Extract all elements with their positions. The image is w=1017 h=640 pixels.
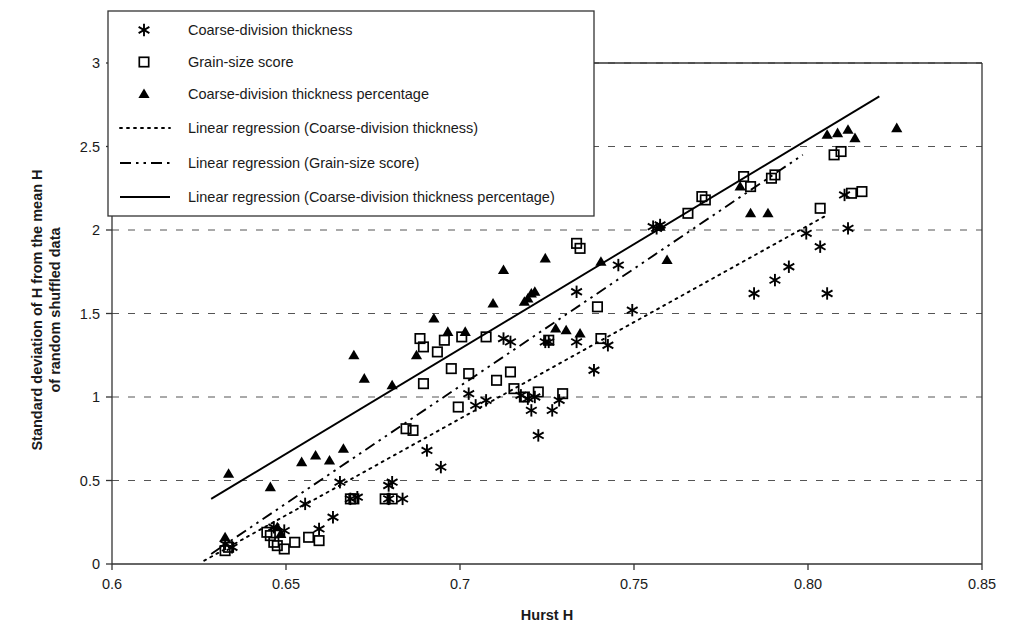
marker-asterisk <box>435 461 446 473</box>
marker-asterisk <box>839 189 850 201</box>
legend: Coarse-division thicknessGrain-size scor… <box>108 11 594 216</box>
marker-square <box>829 150 838 159</box>
marker-triangle <box>310 450 321 460</box>
marker-triangle <box>338 443 349 453</box>
legend-label: Grain-size score <box>188 54 294 70</box>
axis-titles: Hurst HStandard deviation of H from the … <box>29 169 573 623</box>
marker-triangle <box>842 124 853 134</box>
legend-box <box>108 11 594 216</box>
marker-asterisk <box>328 511 339 523</box>
marker-asterisk <box>554 394 565 406</box>
scatter-plot: 00.511.522.530.60.650.70.750.800.85 Hurs… <box>0 0 1017 640</box>
marker-asterisk <box>822 287 833 299</box>
marker-asterisk <box>463 387 474 399</box>
marker-asterisk <box>843 222 854 234</box>
marker-asterisk <box>801 227 812 239</box>
marker-asterisk <box>589 364 600 376</box>
y-tick-label: 0 <box>92 556 100 572</box>
marker-square <box>454 402 463 411</box>
marker-square <box>492 376 501 385</box>
marker-asterisk <box>397 493 408 505</box>
marker-asterisk <box>603 339 614 351</box>
y-axis-title-line1: Standard deviation of H from the mean H <box>29 169 45 450</box>
y-tick-label: 3 <box>92 55 100 71</box>
y-tick-label: 2 <box>92 222 100 238</box>
marker-asterisk <box>470 399 481 411</box>
x-tick-label: 0.7 <box>450 576 470 592</box>
marker-square <box>836 147 845 156</box>
marker-square <box>506 367 515 376</box>
marker-asterisk <box>547 404 558 416</box>
legend-label: Linear regression (Grain-size score) <box>188 155 419 171</box>
marker-triangle <box>891 123 902 133</box>
x-axis-title: Hurst H <box>521 607 573 623</box>
marker-triangle <box>745 208 756 218</box>
marker-asterisk <box>783 261 794 273</box>
marker-asterisk <box>571 286 582 298</box>
marker-square <box>419 379 428 388</box>
x-tick-label: 0.65 <box>272 576 300 592</box>
marker-asterisk <box>422 444 433 456</box>
marker-square <box>697 192 706 201</box>
marker-asterisk <box>749 287 760 299</box>
marker-square <box>815 204 824 213</box>
marker-triangle <box>561 325 572 335</box>
y-tick-label: 0.5 <box>80 473 100 489</box>
x-tick-label: 0.85 <box>968 576 996 592</box>
marker-asterisk <box>300 498 311 510</box>
marker-square <box>304 533 313 542</box>
marker-triangle <box>762 208 773 218</box>
marker-triangle <box>428 313 439 323</box>
marker-triangle <box>296 457 307 467</box>
marker-asterisk <box>627 304 638 316</box>
legend-label: Linear regression (Coarse-division thick… <box>188 120 478 136</box>
marker-triangle <box>265 482 276 492</box>
marker-asterisk <box>770 274 781 286</box>
y-tick-label: 1 <box>92 389 100 405</box>
y-tick-label: 2.5 <box>80 139 100 155</box>
marker-triangle <box>223 468 234 478</box>
marker-square <box>290 538 299 547</box>
marker-asterisk <box>335 476 346 488</box>
y-axis-title-line2: of random shuffled data <box>47 226 63 392</box>
figure-container: 00.511.522.530.60.650.70.750.800.85 Hurs… <box>0 0 1017 640</box>
marker-triangle <box>574 328 585 338</box>
marker-triangle <box>460 326 471 336</box>
marker-asterisk <box>526 404 537 416</box>
x-tick-label: 0.80 <box>794 576 822 592</box>
marker-square <box>509 384 518 393</box>
x-tick-label: 0.6 <box>102 576 122 592</box>
marker-square <box>447 364 456 373</box>
marker-triangle <box>387 380 398 390</box>
regression-line-dotted <box>204 215 827 561</box>
marker-asterisk <box>613 259 624 271</box>
legend-label: Coarse-division thickness percentage <box>188 86 429 102</box>
marker-square <box>314 536 323 545</box>
marker-square <box>440 336 449 345</box>
marker-asterisk <box>533 429 544 441</box>
marker-triangle <box>661 254 672 264</box>
cropped-caption <box>0 626 1017 640</box>
marker-square <box>857 187 866 196</box>
marker-square <box>433 347 442 356</box>
marker-square <box>593 302 602 311</box>
marker-triangle <box>359 373 370 383</box>
marker-triangle <box>849 133 860 143</box>
marker-triangle <box>832 128 843 138</box>
y-tick-label: 1.5 <box>80 306 100 322</box>
x-tick-label: 0.75 <box>620 576 648 592</box>
marker-triangle <box>540 253 551 263</box>
marker-triangle <box>487 298 498 308</box>
marker-triangle <box>220 532 231 542</box>
legend-label: Coarse-division thickness <box>188 22 352 38</box>
marker-asterisk <box>314 523 325 535</box>
y-axis-title: Standard deviation of H from the mean Ho… <box>29 169 63 450</box>
marker-triangle <box>348 350 359 360</box>
marker-square <box>273 541 282 550</box>
marker-triangle <box>498 265 509 275</box>
marker-asterisk <box>481 394 492 406</box>
marker-triangle <box>442 326 453 336</box>
marker-square <box>269 538 278 547</box>
legend-label: Linear regression (Coarse-division thick… <box>188 189 555 205</box>
marker-square <box>280 544 289 553</box>
